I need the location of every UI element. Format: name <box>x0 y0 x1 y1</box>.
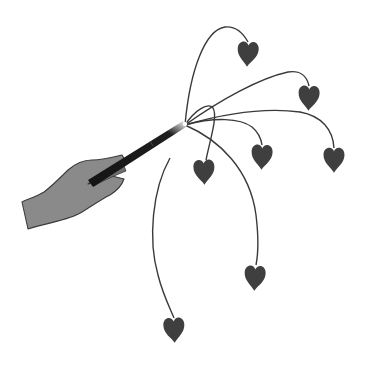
heart-icon <box>163 317 185 343</box>
heart-icon <box>237 41 260 67</box>
string-2 <box>185 72 309 125</box>
string-6 <box>185 125 258 265</box>
string-7 <box>153 158 174 318</box>
string-1 <box>185 27 248 125</box>
string-3 <box>185 111 334 148</box>
magic-wand <box>88 121 187 187</box>
heart-icon <box>324 148 345 173</box>
magic-wand-hearts-illustration <box>0 0 365 371</box>
string-4 <box>185 120 262 145</box>
heart-icon <box>298 85 320 111</box>
heart-icon <box>193 159 215 185</box>
illustration-canvas: Hand holding a magic wand from which cur… <box>0 0 365 371</box>
heart-icon <box>244 265 266 291</box>
heart-icon <box>251 144 273 170</box>
wand-sparkle-icon <box>183 122 187 126</box>
strings <box>153 27 334 318</box>
